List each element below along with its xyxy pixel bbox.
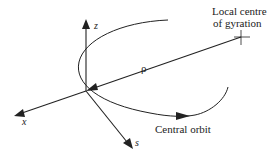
x-axis <box>22 91 86 113</box>
rho-vector <box>94 37 241 88</box>
rho-label: ρ <box>141 62 147 74</box>
z-axis-label: z <box>93 20 98 31</box>
central-orbit-curve <box>78 20 228 116</box>
local-centre-label-line1: Local centre <box>212 5 267 17</box>
central-orbit-label: Central orbit <box>155 123 211 135</box>
local-centre-label-line2: of gyration <box>213 17 262 29</box>
s-axis-label: s <box>135 137 139 148</box>
x-axis-label: x <box>21 116 27 127</box>
z-axis-arrow-icon <box>82 19 90 29</box>
gyration-diagram: z x s ρ Local centre of gyration Central… <box>0 0 277 155</box>
s-axis <box>86 91 127 142</box>
orbit-arrow-icon <box>176 112 190 120</box>
